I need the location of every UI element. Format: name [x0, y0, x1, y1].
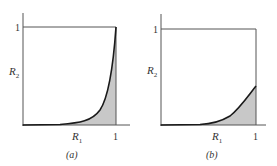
shaded-region-b	[161, 86, 256, 125]
panel-a: 1 R2 R1 1 (a)	[8, 13, 130, 161]
x-tick-label-a: 1	[113, 131, 118, 142]
y-axis-label-a: R2	[8, 65, 20, 80]
x-axis-label-a: R1	[71, 130, 83, 145]
figure-canvas: 1 R2 R1 1 (a) 1 R2 R1 1 (b)	[0, 0, 277, 166]
y-tick-label-a: 1	[15, 22, 20, 33]
panel-b: 1 R2 R1 1 (b)	[146, 14, 266, 161]
caption-a: (a)	[66, 149, 78, 161]
y-tick-label-b: 1	[153, 24, 158, 35]
caption-b: (b)	[206, 149, 218, 161]
shaded-region-a	[23, 27, 116, 125]
x-tick-label-b: 1	[253, 131, 258, 142]
x-axis-label-b: R1	[211, 130, 223, 145]
y-axis-label-b: R2	[146, 64, 158, 79]
